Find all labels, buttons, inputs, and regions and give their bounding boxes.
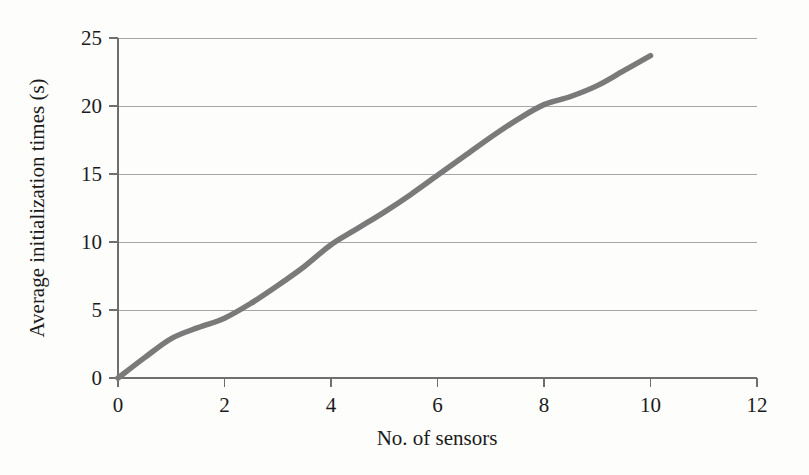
x-tick-label-6: 6: [432, 393, 443, 417]
line-chart: 024681012 0510152025 No. of sensors Aver…: [0, 0, 809, 475]
y-axis-title: Average initialization times (s): [25, 78, 49, 337]
series-line-0: [118, 56, 651, 378]
x-axis-tick-labels: 024681012: [113, 393, 768, 417]
x-tick-label-8: 8: [539, 393, 550, 417]
x-axis-title: No. of sensors: [377, 426, 498, 450]
y-tick-label-5: 5: [92, 298, 103, 322]
y-tick-label-0: 0: [92, 366, 103, 390]
y-tick-label-25: 25: [81, 26, 102, 50]
chart-figure: 024681012 0510152025 No. of sensors Aver…: [0, 0, 809, 475]
y-tick-label-20: 20: [81, 94, 102, 118]
x-tick-label-10: 10: [640, 393, 661, 417]
x-tick-label-4: 4: [326, 393, 337, 417]
y-tick-label-15: 15: [81, 162, 102, 186]
data-series: [118, 56, 651, 378]
x-tick-label-12: 12: [747, 393, 768, 417]
x-tick-label-2: 2: [219, 393, 230, 417]
y-axis-tick-labels: 0510152025: [81, 26, 102, 390]
axes: [118, 38, 757, 378]
tick-marks: [109, 38, 757, 387]
x-tick-label-0: 0: [113, 393, 124, 417]
y-tick-label-10: 10: [81, 230, 102, 254]
